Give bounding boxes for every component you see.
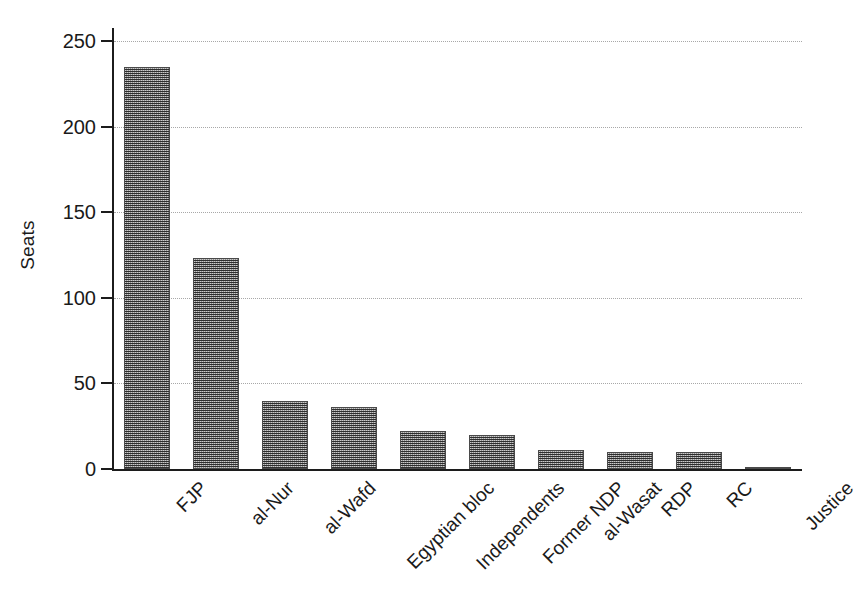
y-tick-mark: [101, 126, 112, 128]
bar: [262, 401, 308, 469]
bar: [607, 452, 653, 469]
y-tick-label: 0: [36, 459, 96, 479]
gridline: [114, 41, 802, 42]
bar: [745, 467, 791, 469]
x-tick-label: RDP: [657, 478, 699, 520]
y-tick-mark: [101, 297, 112, 299]
bar: [124, 67, 170, 469]
y-tick-mark: [101, 382, 112, 384]
x-axis-line: [112, 469, 802, 471]
y-tick-label: 150: [36, 202, 96, 222]
y-tick-label: 50: [36, 373, 96, 393]
x-tick-label: al-Nur: [247, 478, 297, 528]
plot-area: 050100150200250: [112, 28, 802, 470]
x-tick-label: RC: [723, 478, 756, 511]
bar: [676, 452, 722, 469]
bar: [400, 431, 446, 469]
y-tick-mark: [101, 211, 112, 213]
bar: [469, 435, 515, 469]
y-tick-label: 250: [36, 31, 96, 51]
y-tick-label: 100: [36, 288, 96, 308]
gridline: [114, 212, 802, 213]
x-tick-label: al-Wafd: [319, 478, 378, 537]
y-tick-mark: [101, 468, 112, 470]
bar: [538, 450, 584, 469]
bar: [331, 407, 377, 469]
bar: [193, 258, 239, 469]
y-axis-title: Seats: [0, 225, 83, 265]
y-axis-line: [112, 28, 114, 470]
y-tick-mark: [101, 40, 112, 42]
y-tick-label: 200: [36, 117, 96, 137]
x-tick-label: Justice: [801, 478, 856, 533]
x-tick-label: FJP: [172, 478, 209, 515]
gridline: [114, 127, 802, 128]
